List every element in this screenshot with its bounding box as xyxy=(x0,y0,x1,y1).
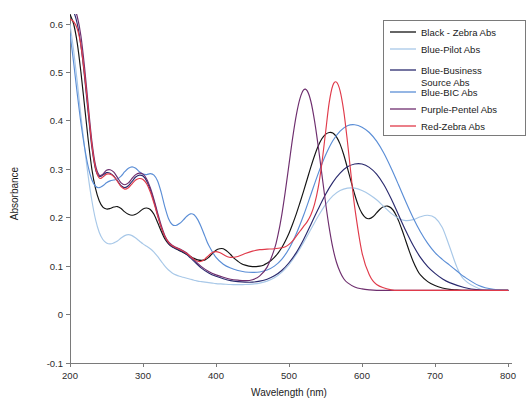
y-tick-label: 0.5 xyxy=(50,67,63,78)
legend-label-0: Black - Zebra Abs xyxy=(421,27,496,38)
legend-label-1: Blue-Pilot Abs xyxy=(421,44,480,55)
y-axis-title: Absorbance xyxy=(9,166,20,220)
legend-label-2: Blue-Business xyxy=(421,65,482,76)
x-tick-label: 400 xyxy=(208,370,224,381)
x-tick-label: 700 xyxy=(427,370,443,381)
x-tick-label: 300 xyxy=(135,370,151,381)
x-tick-label: 800 xyxy=(500,370,516,381)
y-tick-label: -0.1 xyxy=(47,358,63,369)
legend-label-5: Red-Zebra Abs xyxy=(421,121,485,132)
y-tick-label: 0.1 xyxy=(50,261,63,272)
y-tick-label: 0.6 xyxy=(50,19,63,30)
y-tick-label: 0.4 xyxy=(50,115,63,126)
absorbance-spectra-figure: -0.100.10.20.30.40.50.620030040050060070… xyxy=(0,0,529,415)
x-axis-title: Wavelength (nm) xyxy=(251,387,327,398)
y-tick-label: 0.3 xyxy=(50,164,63,175)
y-tick-label: 0 xyxy=(58,309,63,320)
legend-label-3: Blue-BIC Abs xyxy=(421,87,478,98)
chart-canvas: -0.100.10.20.30.40.50.620030040050060070… xyxy=(0,0,529,415)
legend-label-4: Purple-Pentel Abs xyxy=(421,104,497,115)
y-tick-label: 0.2 xyxy=(50,212,63,223)
x-tick-label: 500 xyxy=(281,370,297,381)
x-tick-label: 200 xyxy=(62,370,78,381)
x-tick-label: 600 xyxy=(354,370,370,381)
